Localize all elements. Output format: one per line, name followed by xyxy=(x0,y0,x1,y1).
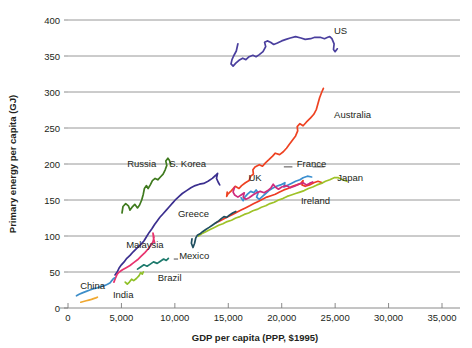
series-label-japan: Japan xyxy=(337,172,363,183)
series-line-australia xyxy=(227,88,324,196)
series-label-us: US xyxy=(334,25,347,36)
x-tick-label: 0 xyxy=(65,312,70,323)
x-tick-label: 35,000 xyxy=(427,312,456,323)
y-tick-label: 250 xyxy=(44,123,60,134)
series-label-malaysia: Malaysia xyxy=(126,239,164,250)
series-label-france: France xyxy=(297,158,327,169)
y-tick-label: 100 xyxy=(44,231,60,242)
y-tick-label: 400 xyxy=(44,15,60,26)
series-label-russia: Russia xyxy=(127,158,157,169)
y-tick-label: 150 xyxy=(44,195,60,206)
series-label-uk: UK xyxy=(248,172,262,183)
gridlines-group xyxy=(68,20,460,272)
series-label-brazil: Brazil xyxy=(158,272,182,283)
x-tick-label: 15,000 xyxy=(214,312,243,323)
series-label-australia: Australia xyxy=(334,109,372,120)
y-tick-label: 200 xyxy=(44,159,60,170)
y-tick-label: 300 xyxy=(44,87,60,98)
y-tick-labels-group: 050100150200250300350400 xyxy=(44,15,68,314)
series-label-ireland: Ireland xyxy=(301,195,330,206)
series-line-india xyxy=(81,297,98,302)
plot-area: 050100150200250300350400 05,00010,00015,… xyxy=(0,0,472,348)
energy-vs-gdp-chart: 050100150200250300350400 05,00010,00015,… xyxy=(0,0,472,348)
series-label-mexico: Mexico xyxy=(179,250,209,261)
series-label-china: China xyxy=(80,280,106,291)
series-label-greece: Greece xyxy=(178,208,209,219)
y-tick-label: 50 xyxy=(49,267,60,278)
x-tick-label: 30,000 xyxy=(374,312,403,323)
x-tick-label: 5,000 xyxy=(110,312,134,323)
series-labels-group: USAustraliaRussiaS. KoreaFranceJapanUKIr… xyxy=(80,25,372,300)
y-tick-label: 350 xyxy=(44,51,60,62)
series-lines-group xyxy=(77,37,347,303)
series-label-s-korea: S. Korea xyxy=(169,158,207,169)
x-tick-label: 20,000 xyxy=(267,312,296,323)
x-tick-label: 10,000 xyxy=(160,312,189,323)
y-axis-title: Primary energy per capita (GJ) xyxy=(7,95,18,233)
x-axis-group xyxy=(60,303,460,308)
y-tick-label: 0 xyxy=(55,303,60,314)
x-axis-title: GDP per capita (PPP, $1995) xyxy=(192,332,318,343)
x-tick-label: 25,000 xyxy=(321,312,350,323)
series-label-india: India xyxy=(113,289,134,300)
x-tick-labels-group: 05,00010,00015,00020,00025,00030,00035,0… xyxy=(65,312,456,323)
series-line-us xyxy=(231,37,337,67)
series-line-mexico xyxy=(138,258,169,269)
series-line-brazil xyxy=(125,272,143,284)
